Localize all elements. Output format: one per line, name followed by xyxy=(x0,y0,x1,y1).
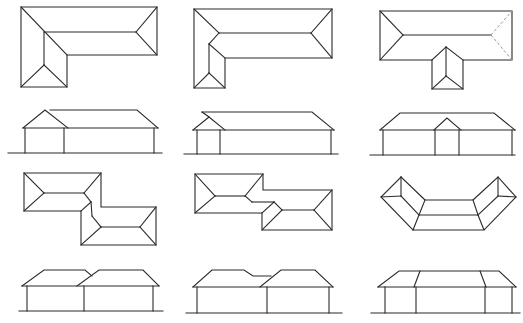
l-shape-elevation xyxy=(8,110,162,153)
roof-diagram-canvas xyxy=(0,0,523,323)
z-shape-wide-elevation xyxy=(186,270,342,313)
t-shape-elevation xyxy=(370,113,515,155)
l-shape-plan xyxy=(21,7,157,87)
l-shape-offset-plan xyxy=(194,9,332,88)
u-shape-plan xyxy=(381,177,516,230)
l-shape-offset-elevation xyxy=(184,112,338,154)
z-shape-wide-plan xyxy=(195,174,332,230)
z-shape-plan xyxy=(24,173,156,245)
z-shape-elevation xyxy=(19,270,163,311)
t-shape-plan xyxy=(380,11,512,89)
u-shape-elevation xyxy=(371,271,520,313)
